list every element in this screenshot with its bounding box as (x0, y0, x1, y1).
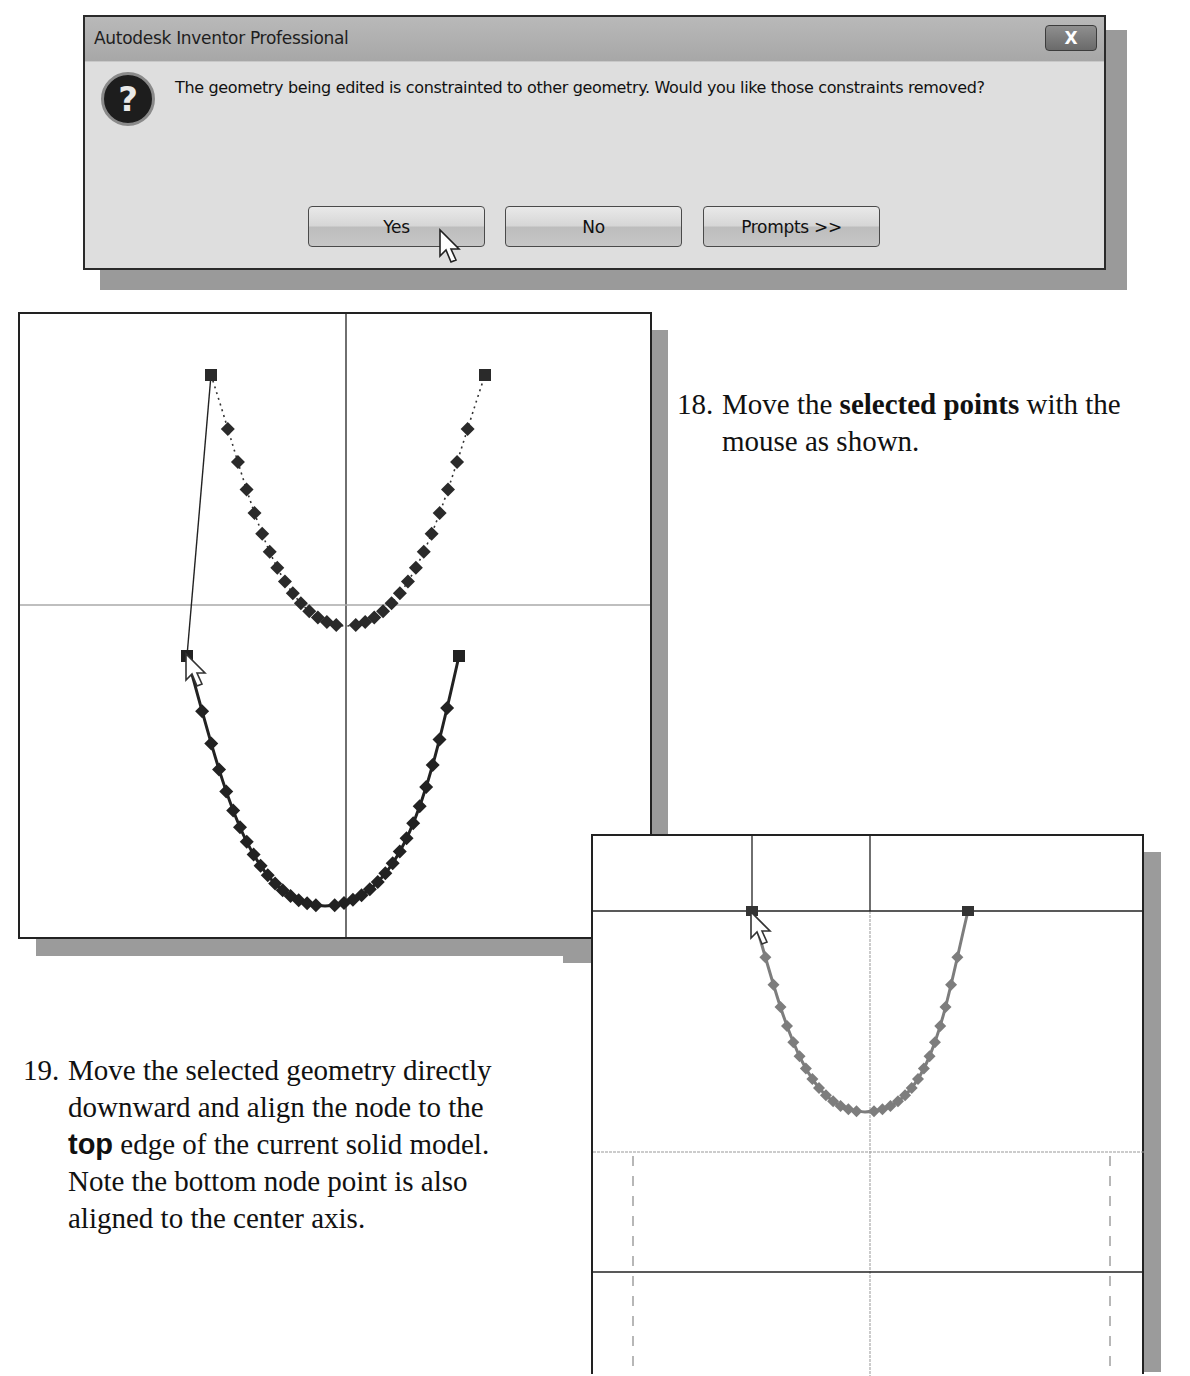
step-number: 19. (23, 1052, 59, 1089)
mouse-cursor-icon (749, 910, 777, 950)
close-icon: X (1064, 28, 1077, 48)
dialog-body: ? The geometry being edited is constrain… (85, 62, 1104, 268)
sketch-canvas-after[interactable] (591, 834, 1144, 1374)
confirm-dialog: Autodesk Inventor Professional X ? The g… (83, 15, 1106, 270)
dialog-title: Autodesk Inventor Professional (94, 28, 349, 48)
close-button[interactable]: X (1045, 25, 1097, 51)
dialog-titlebar: Autodesk Inventor Professional X (85, 17, 1104, 62)
step-18: 18. Move the selected points with the mo… (677, 386, 1187, 466)
upper-spline-nodes (205, 369, 491, 632)
no-button[interactable]: No (505, 206, 682, 247)
prompts-button[interactable]: Prompts >> (703, 206, 880, 247)
mouse-cursor-icon (438, 228, 468, 268)
dialog-message: The geometry being edited is constrainte… (175, 78, 985, 97)
canvas-shadow (563, 943, 591, 963)
emphasis-selected-points: selected points (840, 388, 1020, 420)
sketch-graphics (20, 314, 650, 937)
step-number: 18. (677, 386, 713, 423)
question-icon: ? (101, 72, 155, 126)
mouse-cursor-icon (184, 652, 212, 692)
canvas-shadow (1143, 852, 1161, 1372)
sketch-graphics (593, 836, 1144, 1376)
sketch-canvas-before[interactable] (18, 312, 652, 939)
step-19: 19. Move the selected geometry directly … (23, 1052, 583, 1242)
emphasis-top: top (68, 1128, 113, 1160)
